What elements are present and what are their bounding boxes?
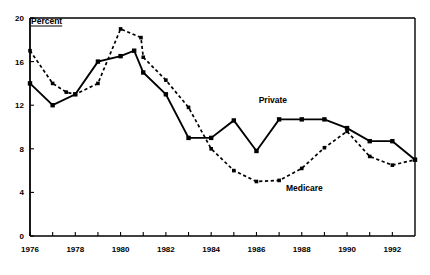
data-point-marker — [323, 146, 327, 150]
y-axis-title: Percent — [31, 16, 62, 26]
data-point-marker — [119, 27, 123, 31]
y-tick-label: 8 — [20, 145, 25, 154]
x-tick-label: 1986 — [248, 245, 266, 254]
data-point-marker — [73, 92, 77, 96]
y-tick-label: 4 — [20, 188, 25, 197]
data-point-marker — [368, 139, 372, 143]
x-tick-label: 1982 — [157, 245, 175, 254]
data-point-marker — [141, 70, 145, 74]
data-point-marker — [50, 103, 54, 107]
y-tick-label: 20 — [15, 14, 24, 23]
data-point-marker — [300, 117, 304, 121]
data-point-marker — [28, 49, 32, 53]
y-tick-label: 0 — [20, 232, 25, 241]
data-point-marker — [391, 163, 395, 167]
x-tick-label: 1978 — [66, 245, 84, 254]
data-point-marker — [187, 106, 191, 110]
data-point-marker — [64, 90, 68, 94]
x-tick-label: 1976 — [21, 245, 39, 254]
data-point-marker — [28, 81, 32, 85]
data-point-marker — [255, 180, 259, 184]
data-point-marker — [413, 158, 417, 162]
data-point-marker — [345, 126, 349, 130]
chart-container: 048121620 197619781980198219841986198819… — [0, 0, 430, 275]
data-point-marker — [51, 82, 55, 86]
data-point-marker — [96, 82, 100, 86]
data-point-marker — [277, 117, 281, 121]
data-point-marker — [300, 167, 304, 171]
data-point-marker — [232, 118, 236, 122]
data-point-marker — [277, 179, 281, 183]
data-point-marker — [254, 149, 258, 153]
y-tick-label: 12 — [15, 101, 24, 110]
data-point-marker — [209, 136, 213, 140]
data-point-marker — [132, 49, 136, 53]
series-label-medicare: Medicare — [286, 183, 323, 193]
data-point-marker — [390, 139, 394, 143]
x-tick-label: 1980 — [112, 245, 130, 254]
data-point-marker — [368, 155, 372, 159]
data-point-marker — [209, 147, 213, 151]
y-axis-title-group: Percent — [31, 16, 62, 26]
y-tick-label: 16 — [15, 58, 24, 67]
series-label-private: Private — [259, 95, 288, 105]
x-tick-label: 1984 — [202, 245, 220, 254]
line-chart: 048121620 197619781980198219841986198819… — [0, 0, 430, 275]
data-point-marker — [232, 169, 236, 173]
x-tick-label: 1988 — [293, 245, 311, 254]
data-point-marker — [164, 78, 168, 82]
data-point-marker — [322, 117, 326, 121]
data-point-marker — [96, 59, 100, 63]
data-point-marker — [186, 136, 190, 140]
data-point-marker — [139, 36, 143, 40]
chart-background — [0, 0, 430, 275]
data-point-marker — [164, 92, 168, 96]
data-point-marker — [141, 55, 145, 59]
data-point-marker — [118, 54, 122, 58]
x-tick-label: 1990 — [338, 245, 356, 254]
x-tick-label: 1992 — [383, 245, 401, 254]
